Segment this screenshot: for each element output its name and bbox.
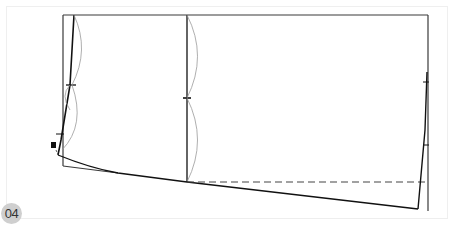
guide-curves-left (62, 15, 82, 150)
marker-square (51, 142, 56, 148)
caption-divider (22, 218, 448, 219)
front-edge-line (418, 72, 427, 209)
pattern-diagram (0, 0, 453, 225)
figure-number-badge: 04 (1, 203, 22, 224)
